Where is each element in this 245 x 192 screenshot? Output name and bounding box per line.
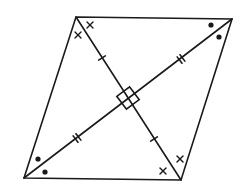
diagram-svg [0,0,245,192]
diagonal-bl-tr [24,19,232,178]
rhombus-diagram [0,0,245,192]
